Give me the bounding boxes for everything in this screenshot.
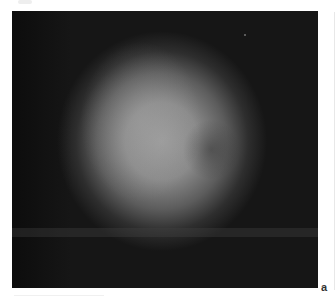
adjacent-panel-edge	[334, 12, 335, 290]
horizontal-artifact-band	[12, 228, 318, 237]
top-smudge	[18, 0, 32, 4]
left-shadow	[12, 11, 72, 288]
bottom-faint-line	[14, 295, 104, 296]
speck	[244, 34, 246, 36]
figure-image-panel	[12, 11, 318, 288]
panel-label: a	[321, 281, 327, 293]
